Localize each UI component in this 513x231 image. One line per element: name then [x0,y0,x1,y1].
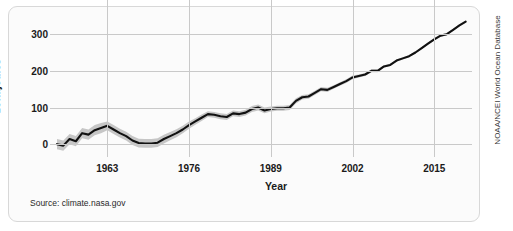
y-axis-title: zettajoules [0,59,2,113]
y-axis-tick-label: 300 [31,29,48,40]
gridline-vertical [107,0,108,157]
gridline-horizontal [57,108,472,109]
y-axis-tick [50,108,57,109]
ocean-heat-content-chart-figure: 0100200300 Year zettajoules Source: clim… [0,0,513,231]
x-axis-tick-label: 1989 [260,163,282,174]
x-axis-tick-label: 1963 [96,163,118,174]
ocean-heat-content-line [57,22,466,146]
y-axis-tick-labels: 0100200300 [22,14,48,157]
y-axis-tick [50,34,57,35]
plot-area [57,14,472,157]
gridline-vertical [271,0,272,157]
gridline-vertical [189,0,190,157]
x-axis-tick-label: 2015 [423,163,445,174]
gridline-horizontal [57,71,472,72]
source-note: Source: climate.nasa.gov [30,198,125,208]
x-axis-tick-label: 2002 [341,163,363,174]
credit-note: NOAA/NCEI World Ocean Database [493,15,502,144]
y-axis-tick-label: 200 [31,65,48,76]
gridline-vertical [434,0,435,157]
x-axis-tick-label: 1976 [178,163,200,174]
y-axis-tick-label: 100 [31,102,48,113]
gridline-horizontal [57,34,472,35]
x-axis-title: Year [265,180,287,192]
gridline-horizontal [57,144,472,145]
y-axis-tick [50,71,57,72]
series-svg [57,14,472,157]
y-axis-tick-label: 0 [42,139,48,150]
y-axis-tick [50,144,57,145]
gridline-vertical [353,0,354,157]
